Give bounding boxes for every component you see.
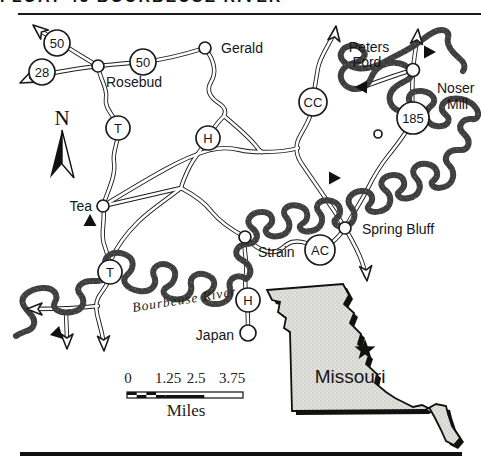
shield-hwy28-label: 28 — [35, 65, 49, 80]
scale-tick-1: 1.25 — [155, 370, 181, 386]
label-tea: Tea — [69, 198, 92, 214]
label-peters-ford-line1: Peters — [349, 39, 389, 55]
shield-hwy185-label: 185 — [402, 111, 424, 126]
map-page: FLOAT 45 BOURBEUSE RIVER — [0, 0, 481, 463]
label-noser-mill-line1: Noser — [437, 80, 475, 96]
shield-route-t-north-label: T — [114, 121, 122, 136]
shield-route-h-north-label: H — [203, 131, 212, 146]
missouri-inset: Missouri — [267, 284, 464, 449]
town-dot-spring-bluff — [339, 222, 351, 234]
scale-tick-2: 2.5 — [187, 370, 206, 386]
scale-bar-graphic — [127, 392, 243, 398]
label-noser-mill-line2: Mill — [447, 96, 468, 112]
label-peters-ford-line2: Ford — [353, 54, 382, 70]
scale-bar: 0 1.25 2.5 3.75 Miles — [124, 370, 245, 420]
town-dot-rosebud — [92, 60, 104, 72]
shield-route-t-south-label: T — [106, 265, 114, 280]
missouri-outline — [267, 284, 460, 445]
access-triangle-tea-icon — [84, 214, 97, 226]
north-arrow-icon-right — [62, 130, 74, 178]
arrow-south-spring-bluff-icon — [360, 266, 373, 282]
label-japan: Japan — [196, 327, 234, 343]
town-dot-japan — [240, 325, 256, 341]
shield-hwy50-west-label: 50 — [50, 36, 64, 51]
label-missouri: Missouri — [315, 366, 386, 387]
scale-tick-3: 3.75 — [219, 370, 245, 386]
arrow-north-cc-icon — [328, 25, 342, 42]
shield-route-cc-label: CC — [304, 95, 323, 110]
access-triangle-mid-river-icon — [329, 172, 341, 185]
scale-tick-0: 0 — [124, 370, 132, 386]
label-rosebud: Rosebud — [106, 74, 162, 90]
scale-unit-label: Miles — [167, 401, 206, 420]
label-spring-bluff: Spring Bluff — [362, 221, 434, 237]
north-label: N — [54, 106, 69, 130]
town-dot-gerald — [199, 42, 211, 54]
shield-hwy50-east-label: 50 — [136, 55, 150, 70]
map-canvas: 50 28 50 T H CC 185 AC T H Gerald Rosebu… — [0, 0, 481, 463]
shield-route-ac-label: AC — [311, 243, 329, 258]
north-compass: N — [50, 106, 74, 178]
label-gerald: Gerald — [221, 40, 263, 56]
shield-route-h-south-label: H — [243, 293, 252, 308]
label-strain: Strain — [258, 244, 295, 260]
town-dot-small — [374, 130, 382, 138]
north-arrow-icon-left — [50, 130, 62, 178]
town-dot-tea — [97, 200, 109, 212]
town-dot-strain — [239, 231, 251, 243]
town-dot-noser-mill — [407, 64, 420, 77]
access-triangle-noser-mill-icon — [424, 46, 436, 59]
